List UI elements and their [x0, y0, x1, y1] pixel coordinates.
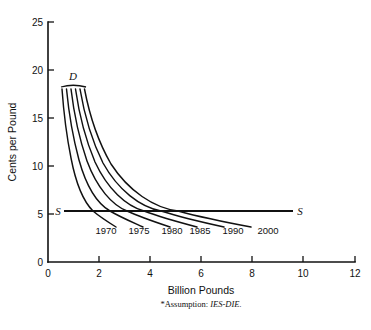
- supply-curve-group: S S: [55, 205, 303, 217]
- year-label-1970: 1970: [95, 225, 116, 236]
- y-axis-title: Cents per Pound: [6, 102, 18, 181]
- y-tick-label-10: 10: [32, 161, 44, 172]
- demand-curve-1990: [80, 89, 224, 227]
- x-axis-title: Billion Pounds: [168, 284, 235, 296]
- year-label-1975: 1975: [128, 225, 149, 236]
- y-tick-label-20: 20: [32, 65, 44, 76]
- demand-curve-2000: [85, 89, 252, 227]
- supply-label-left: S: [55, 205, 61, 217]
- demand-curve-family: [62, 89, 251, 227]
- x-tick-label-0: 0: [45, 268, 51, 279]
- year-label-1985: 1985: [189, 225, 210, 236]
- y-tick-label-0: 0: [37, 257, 43, 268]
- footnote-emphasis: IES-DIE.: [209, 299, 241, 309]
- year-label-2000: 2000: [257, 225, 278, 236]
- x-tick-label-4: 4: [147, 268, 153, 279]
- demand-curve-label: D: [68, 70, 77, 82]
- x-tick-label-10: 10: [297, 268, 309, 279]
- footnote: *Assumption: IES-DIE.: [160, 299, 241, 309]
- x-tick-label-2: 2: [96, 268, 102, 279]
- supply-label-right: S: [297, 205, 303, 217]
- x-tick-label-12: 12: [349, 268, 361, 279]
- demand-curve-1985: [76, 89, 198, 227]
- x-axis-ticks: 0 2 4 6 8 10 12: [45, 256, 361, 279]
- y-tick-label-25: 25: [32, 17, 44, 28]
- y-axis-ticks: 25 20 15 10 5 0: [32, 17, 54, 268]
- x-tick-label-6: 6: [198, 268, 204, 279]
- x-tick-label-8: 8: [249, 268, 255, 279]
- economics-supply-demand-chart: 25 20 15 10 5 0 0 2 4 6 8 10 12: [0, 0, 371, 330]
- y-tick-label-5: 5: [37, 209, 43, 220]
- svg-text:*Assumption: IES-DIE.: *Assumption: IES-DIE.: [160, 299, 241, 309]
- chart-canvas: 25 20 15 10 5 0 0 2 4 6 8 10 12: [0, 0, 371, 330]
- demand-label-group: D: [61, 70, 86, 87]
- year-label-1990: 1990: [222, 225, 243, 236]
- demand-curve-1980: [71, 89, 170, 227]
- footnote-prefix: *Assumption:: [160, 299, 210, 309]
- year-label-1980: 1980: [161, 225, 182, 236]
- y-tick-label-15: 15: [32, 113, 44, 124]
- demand-bracket: [61, 85, 86, 87]
